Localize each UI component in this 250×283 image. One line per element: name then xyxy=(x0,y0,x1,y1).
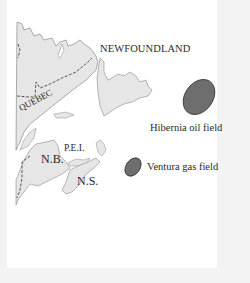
label-new-brunswick: N.B. xyxy=(41,152,64,167)
label-pei: P.E.I. xyxy=(64,143,84,153)
land-quebec xyxy=(16,22,98,150)
label-newfoundland: NEWFOUNDLAND xyxy=(100,43,190,54)
ventura-gas-field-marker xyxy=(122,155,145,179)
land-new-brunswick xyxy=(16,140,70,205)
land-anticosti xyxy=(54,112,74,118)
land-cape-breton xyxy=(96,140,106,156)
label-hibernia-oil-field: Hibernia oil field xyxy=(150,122,222,133)
label-nova-scotia: N.S. xyxy=(77,174,98,189)
label-ventura-gas-field: Ventura gas field xyxy=(147,161,218,172)
land-newfoundland xyxy=(97,58,152,116)
hibernia-oil-field-marker xyxy=(177,73,222,120)
